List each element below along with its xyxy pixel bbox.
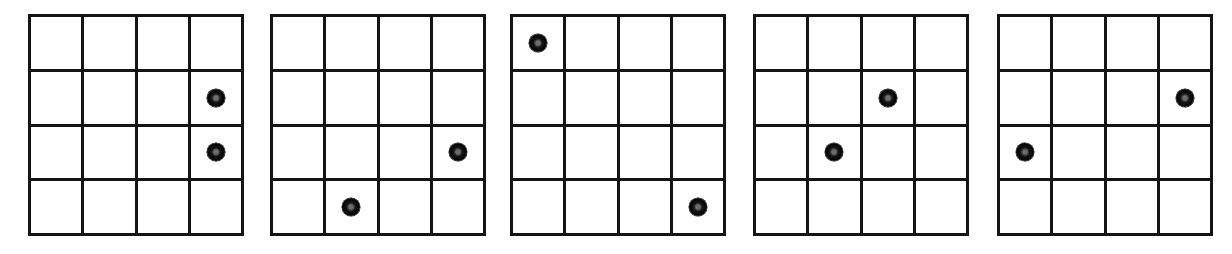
grid-cell-r2-c3[interactable] [138, 72, 191, 127]
grid-cell-r3-c1[interactable] [513, 127, 566, 182]
grid-cell-r1-c3[interactable] [138, 17, 191, 72]
filled-dot-marker-icon [1176, 89, 1194, 107]
grid-cell-r4-c3[interactable] [863, 181, 916, 236]
grid-cell-r4-c3[interactable] [380, 181, 433, 236]
grid-cell-r4-c4[interactable] [433, 181, 486, 236]
filled-dot-marker-icon [879, 89, 897, 107]
grid-cell-r3-c4[interactable] [191, 127, 244, 182]
filled-dot-marker-icon [689, 198, 707, 216]
grid-cell-r3-c2[interactable] [84, 127, 137, 182]
grid-cell-r4-c3[interactable] [1107, 181, 1160, 236]
grid-cell-r3-c4[interactable] [433, 127, 486, 182]
grid-cell-r1-c1[interactable] [31, 17, 84, 72]
filled-dot-marker-icon [207, 143, 225, 161]
grid-cell-r3-c4[interactable] [1160, 127, 1213, 182]
grid-cell-r3-c3[interactable] [380, 127, 433, 182]
grid-cell-r1-c4[interactable] [673, 17, 726, 72]
grid-cell-r3-c1[interactable] [1000, 127, 1053, 182]
grid-cell-r3-c3[interactable] [863, 127, 916, 182]
grid-cell-r1-c3[interactable] [1107, 17, 1160, 72]
figure-canvas [0, 0, 1232, 254]
dot-grid-panel-5 [997, 14, 1213, 236]
grid-cell-r4-c4[interactable] [673, 181, 726, 236]
grid-cell-r1-c1[interactable] [756, 17, 809, 72]
grid-cell-r3-c3[interactable] [138, 127, 191, 182]
grid-cell-r1-c2[interactable] [1053, 17, 1106, 72]
grid-cell-r4-c4[interactable] [191, 181, 244, 236]
grid-cell-r3-c4[interactable] [673, 127, 726, 182]
grid-cell-r1-c4[interactable] [1160, 17, 1213, 72]
dot-grid-panel-2 [270, 14, 486, 236]
grid-cell-r2-c2[interactable] [566, 72, 619, 127]
grid-cell-r4-c2[interactable] [326, 181, 379, 236]
grid-cell-r4-c1[interactable] [273, 181, 326, 236]
grid-cell-r4-c1[interactable] [1000, 181, 1053, 236]
grid-cell-r1-c1[interactable] [273, 17, 326, 72]
grid-cell-r1-c1[interactable] [513, 17, 566, 72]
grid-cell-r3-c3[interactable] [620, 127, 673, 182]
grid-cell-r2-c1[interactable] [1000, 72, 1053, 127]
grid-cell-r1-c2[interactable] [809, 17, 862, 72]
grid-cell-r2-c4[interactable] [191, 72, 244, 127]
grid-cell-r1-c3[interactable] [620, 17, 673, 72]
grid-cell-r1-c3[interactable] [380, 17, 433, 72]
grid-cell-r1-c1[interactable] [1000, 17, 1053, 72]
grid-cell-r1-c4[interactable] [433, 17, 486, 72]
grid-cell-r3-c2[interactable] [809, 127, 862, 182]
grid-cell-r2-c2[interactable] [326, 72, 379, 127]
grid-cell-r4-c3[interactable] [620, 181, 673, 236]
filled-dot-marker-icon [207, 89, 225, 107]
grid-cell-r2-c4[interactable] [1160, 72, 1213, 127]
grid-cell-r2-c2[interactable] [1053, 72, 1106, 127]
filled-dot-marker-icon [449, 143, 467, 161]
grid-cell-r4-c2[interactable] [84, 181, 137, 236]
grid-cell-r2-c3[interactable] [1107, 72, 1160, 127]
grid-cell-r4-c2[interactable] [809, 181, 862, 236]
grid-cell-r2-c2[interactable] [84, 72, 137, 127]
grid-cell-r1-c2[interactable] [566, 17, 619, 72]
grid-cell-r2-c3[interactable] [380, 72, 433, 127]
grid-cell-r1-c4[interactable] [916, 17, 969, 72]
filled-dot-marker-icon [825, 143, 843, 161]
grid-cell-r3-c1[interactable] [31, 127, 84, 182]
grid-cell-r2-c4[interactable] [916, 72, 969, 127]
filled-dot-marker-icon [342, 198, 360, 216]
grid-cell-r1-c2[interactable] [84, 17, 137, 72]
grid-cell-r4-c2[interactable] [566, 181, 619, 236]
grid-cell-r3-c2[interactable] [326, 127, 379, 182]
grid-cell-r2-c4[interactable] [673, 72, 726, 127]
grid-cell-r2-c2[interactable] [809, 72, 862, 127]
grid-cell-r4-c4[interactable] [1160, 181, 1213, 236]
dot-grid-panel-3 [510, 14, 726, 236]
grid-cell-r3-c1[interactable] [273, 127, 326, 182]
grid-cell-r2-c4[interactable] [433, 72, 486, 127]
grid-cell-r3-c4[interactable] [916, 127, 969, 182]
grid-cell-r4-c1[interactable] [31, 181, 84, 236]
filled-dot-marker-icon [1016, 143, 1034, 161]
grid-cell-r4-c1[interactable] [756, 181, 809, 236]
grid-cell-r1-c2[interactable] [326, 17, 379, 72]
grid-cell-r3-c3[interactable] [1107, 127, 1160, 182]
grid-cell-r4-c3[interactable] [138, 181, 191, 236]
dot-grid-panel-1 [28, 14, 244, 236]
grid-cell-r4-c1[interactable] [513, 181, 566, 236]
dot-grid-panel-4 [753, 14, 969, 236]
grid-cell-r2-c1[interactable] [513, 72, 566, 127]
grid-cell-r4-c2[interactable] [1053, 181, 1106, 236]
grid-cell-r2-c1[interactable] [756, 72, 809, 127]
grid-cell-r2-c1[interactable] [31, 72, 84, 127]
filled-dot-marker-icon [529, 34, 547, 52]
grid-cell-r3-c2[interactable] [566, 127, 619, 182]
grid-cell-r4-c4[interactable] [916, 181, 969, 236]
grid-cell-r2-c1[interactable] [273, 72, 326, 127]
grid-cell-r3-c2[interactable] [1053, 127, 1106, 182]
grid-cell-r2-c3[interactable] [863, 72, 916, 127]
grid-cell-r3-c1[interactable] [756, 127, 809, 182]
grid-cell-r1-c3[interactable] [863, 17, 916, 72]
grid-cell-r2-c3[interactable] [620, 72, 673, 127]
grid-cell-r1-c4[interactable] [191, 17, 244, 72]
